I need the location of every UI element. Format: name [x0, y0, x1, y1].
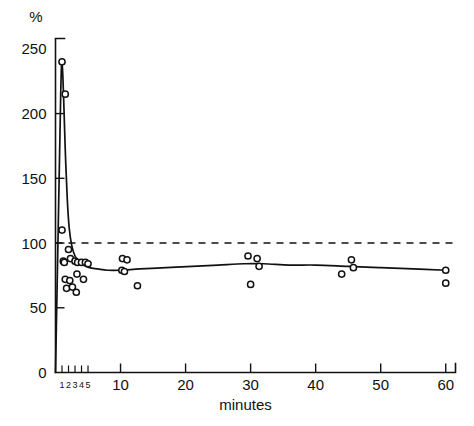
data-point	[443, 280, 449, 286]
data-point	[62, 91, 68, 97]
x-tick-label: 20	[177, 376, 194, 393]
data-point	[74, 271, 80, 277]
x-tick-label: 3	[73, 380, 78, 390]
data-point	[59, 59, 65, 65]
x-tick-label: 2	[66, 380, 71, 390]
x-tick-label: 5	[86, 380, 91, 390]
data-point	[350, 265, 356, 271]
x-tick-label: 30	[242, 376, 259, 393]
axis-spine	[56, 39, 456, 373]
data-point	[67, 277, 73, 283]
data-point	[80, 276, 86, 282]
chart-figure: 05010015020025012345102030405060%minutes	[0, 0, 474, 426]
data-point	[254, 255, 260, 261]
data-point	[245, 253, 251, 259]
data-points-group	[59, 59, 449, 296]
fit-curve	[56, 62, 446, 373]
y-tick-label: 50	[30, 299, 47, 316]
data-point	[256, 263, 262, 269]
data-point	[339, 271, 345, 277]
x-axis-title: minutes	[219, 396, 272, 413]
data-point	[124, 257, 130, 263]
data-point	[61, 259, 67, 265]
y-tick-label: 200	[21, 105, 46, 122]
data-point	[121, 268, 127, 274]
data-point	[248, 281, 254, 287]
x-tick-label: 40	[307, 376, 324, 393]
y-tick-label: 0	[38, 364, 46, 381]
fit-curve-group	[56, 62, 446, 373]
y-axis-unit-label: %	[29, 8, 42, 25]
x-tick-label: 1	[59, 380, 64, 390]
axis-labels-group: 05010015020025012345102030405060%minutes	[21, 8, 454, 413]
x-tick-label: 60	[437, 376, 454, 393]
data-point	[134, 283, 140, 289]
y-tick-label: 250	[21, 40, 46, 57]
data-point	[348, 257, 354, 263]
x-tick-label: 4	[79, 380, 84, 390]
data-point	[85, 261, 91, 267]
axes-group	[56, 39, 456, 373]
y-tick-label: 150	[21, 170, 46, 187]
data-point	[73, 289, 79, 295]
data-point	[443, 267, 449, 273]
data-point	[59, 227, 65, 233]
scatter-plot: 05010015020025012345102030405060%minutes	[0, 0, 474, 426]
x-tick-label: 10	[112, 376, 129, 393]
x-tick-label: 50	[372, 376, 389, 393]
y-tick-label: 100	[21, 235, 46, 252]
data-point	[65, 246, 71, 252]
